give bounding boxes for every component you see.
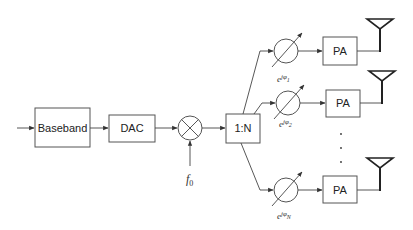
beamforming-diagram: Baseband DAC f0 1:N PA: [0, 0, 413, 230]
dac-block: DAC: [109, 115, 155, 142]
branch-n-feed: [241, 143, 273, 190]
branch-1: PA ejφ1: [272, 19, 393, 84]
branch-2: PA ejφ2: [274, 71, 395, 129]
mixer-icon: [178, 116, 202, 140]
splitter-label: 1:N: [234, 122, 251, 134]
branch-1-feed: [243, 51, 273, 114]
phase-shifter-icon: [272, 172, 302, 206]
antenna-icon: [367, 19, 393, 52]
phase-label-1: ejφ1: [277, 73, 290, 84]
lo-label: f0: [186, 172, 193, 188]
pa-label: PA: [333, 45, 348, 57]
phase-shifter-icon: [274, 85, 304, 119]
branch-n: PA ejφN: [272, 158, 393, 221]
antenna-icon: [367, 158, 393, 191]
antenna-icon: [369, 71, 395, 104]
baseband-block: Baseband: [35, 108, 90, 147]
baseband-label: Baseband: [38, 122, 88, 134]
branch-2-feed: [254, 103, 275, 114]
dac-label: DAC: [120, 122, 143, 134]
phase-shifter-icon: [272, 33, 302, 67]
phase-label-n: ejφN: [277, 210, 292, 221]
pa-label: PA: [333, 184, 348, 196]
phase-label-2: ejφ2: [279, 118, 292, 129]
splitter-block: 1:N: [226, 114, 260, 143]
ellipsis-dots: [340, 133, 342, 163]
pa-label: PA: [336, 97, 351, 109]
lo-subscript: 0: [189, 179, 193, 188]
